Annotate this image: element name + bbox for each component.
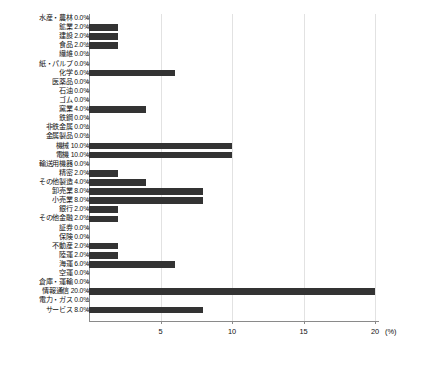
x-axis-tick-label: 20 <box>371 327 379 336</box>
bar-rows-container: 水産・農林0.0%鉱業2.0%建設2.0%食品2.0%繊維0.0%紙・パルプ0.… <box>0 14 421 315</box>
category-label: 建設 <box>59 32 73 40</box>
category-label: 水産・農林 <box>39 14 73 22</box>
x-axis-unit-label: (%) <box>385 327 397 336</box>
category-label: 証券 <box>59 224 73 232</box>
bar <box>89 143 232 150</box>
bar <box>89 33 118 40</box>
bar <box>89 197 203 204</box>
category-label: 窯業 <box>59 105 73 113</box>
y-axis-tick <box>86 164 89 165</box>
industry-distribution-bar-chart: 5101520 (%) 水産・農林0.0%鉱業2.0%建設2.0%食品2.0%繊… <box>0 0 421 366</box>
category-label: 紙・パルプ <box>39 60 73 68</box>
category-label: 陸運 <box>59 251 73 259</box>
y-axis-tick <box>86 55 89 56</box>
bar <box>89 170 118 177</box>
bar <box>89 24 118 31</box>
x-axis-tick-label: 10 <box>228 327 236 336</box>
category-label: 食品 <box>59 41 73 49</box>
x-axis-tick <box>161 321 162 324</box>
category-label: 鉄鋼 <box>59 114 73 122</box>
y-axis-tick <box>86 228 89 229</box>
category-label: 機械 <box>56 142 70 150</box>
x-axis-tick-label: 15 <box>299 327 307 336</box>
category-label: その他金融 <box>39 214 73 222</box>
category-label: 卸売業 <box>52 187 72 195</box>
category-label: ゴム <box>59 96 73 104</box>
category-label: 保険 <box>59 233 73 241</box>
bar <box>89 70 175 77</box>
category-label: 繊維 <box>59 50 73 58</box>
bar <box>89 307 203 314</box>
bar <box>89 188 203 195</box>
category-label: 倉庫・運輸 <box>39 278 73 286</box>
category-label: 石油 <box>59 87 73 95</box>
bar <box>89 216 118 223</box>
category-label: 空運 <box>59 269 73 277</box>
bar <box>89 106 146 113</box>
y-axis-tick <box>86 301 89 302</box>
x-axis-tick <box>232 321 233 324</box>
x-axis-tick <box>304 321 305 324</box>
bar <box>89 243 118 250</box>
category-label: 小売業 <box>52 196 72 204</box>
category-label: 非鉄金属 <box>46 123 73 131</box>
bar <box>89 179 146 186</box>
x-axis-line <box>89 321 379 322</box>
category-label: 不動産 <box>52 242 72 250</box>
bar-row: サービス8.0% <box>0 306 421 315</box>
bar-row-label: サービス8.0% <box>46 305 89 315</box>
bar <box>89 252 118 259</box>
y-axis-tick <box>86 82 89 83</box>
y-axis-tick <box>86 282 89 283</box>
category-label: 精密 <box>59 169 73 177</box>
y-axis-tick <box>86 237 89 238</box>
bar <box>89 261 175 268</box>
category-label: サービス <box>46 306 73 314</box>
category-label: 鉱業 <box>59 23 73 31</box>
y-axis-tick <box>86 273 89 274</box>
y-axis-tick <box>86 118 89 119</box>
bar <box>89 42 118 49</box>
bar <box>89 206 118 213</box>
y-axis-tick <box>86 137 89 138</box>
category-label: 情報通信 <box>42 287 69 295</box>
category-label: 医薬品 <box>52 78 72 86</box>
y-axis-tick <box>86 91 89 92</box>
category-label: 電力・ガス <box>39 296 73 304</box>
category-label: 海運 <box>59 260 73 268</box>
category-label: 化学 <box>59 69 73 77</box>
category-label: その他製造 <box>39 178 73 186</box>
category-label: 金属製品 <box>46 132 73 140</box>
y-axis-tick <box>86 64 89 65</box>
category-label: 銀行 <box>59 205 73 213</box>
bar <box>89 152 232 159</box>
category-label: 電機 <box>56 151 70 159</box>
x-axis-tick <box>375 321 376 324</box>
y-axis-tick <box>86 18 89 19</box>
y-axis-tick <box>86 100 89 101</box>
y-axis-tick <box>86 128 89 129</box>
x-axis-tick-label: 5 <box>158 327 162 336</box>
category-label: 輸送用機器 <box>39 160 73 168</box>
bar <box>89 288 375 295</box>
